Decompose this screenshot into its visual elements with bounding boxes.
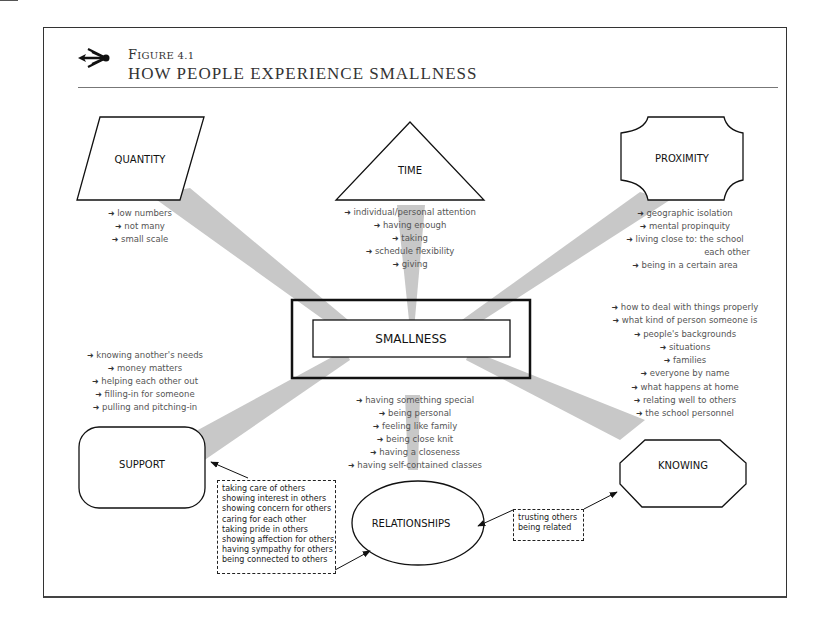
list-item: how to deal with things properly bbox=[600, 301, 770, 314]
list-item: what kind of person someone is bbox=[600, 314, 770, 327]
list-item: filling-in for someone bbox=[80, 388, 210, 401]
callout-item: being related bbox=[518, 523, 579, 533]
arrow-to-support bbox=[211, 462, 248, 478]
list-item: having something special bbox=[340, 394, 490, 407]
time-list: individual/personal attention having eno… bbox=[335, 206, 485, 271]
callout-item: being connected to others bbox=[222, 555, 331, 565]
relationships-list: having something special being personal … bbox=[340, 394, 490, 472]
list-item: living close to: the school bbox=[620, 233, 750, 246]
arrow-to-relationships bbox=[335, 551, 370, 570]
callout-item: taking pride in others bbox=[222, 525, 331, 535]
time-label: TIME bbox=[397, 165, 422, 176]
callout-item: showing interest in others bbox=[222, 494, 331, 504]
callout-item: trusting others bbox=[518, 513, 579, 523]
list-item: being in a certain area bbox=[620, 259, 750, 272]
list-item: people's backgrounds bbox=[600, 328, 770, 341]
quantity-list: low numbers not many small scale bbox=[90, 207, 190, 246]
callout-relationships-knowing: trusting others being related bbox=[513, 509, 584, 541]
quantity-label: QUANTITY bbox=[115, 154, 167, 165]
callout-item: taking care of others bbox=[222, 484, 331, 494]
list-item: low numbers bbox=[90, 207, 190, 220]
list-item: mental propinquity bbox=[620, 220, 750, 233]
proximity-label: PROXIMITY bbox=[655, 153, 710, 164]
callout-item: showing concern for others bbox=[222, 504, 331, 514]
list-item: geographic isolation bbox=[620, 207, 750, 220]
list-item: the school personnel bbox=[600, 407, 770, 420]
list-item: being close knit bbox=[340, 433, 490, 446]
list-item: having enough bbox=[335, 219, 485, 232]
callout-item: caring for each other bbox=[222, 515, 331, 525]
proximity-list: geographic isolation mental propinquity … bbox=[620, 207, 750, 272]
knowing-shape bbox=[620, 440, 746, 507]
list-item: helping each other out bbox=[80, 375, 210, 388]
list-item: giving bbox=[335, 258, 485, 271]
list-item: what happens at home bbox=[600, 381, 770, 394]
list-item: families bbox=[600, 354, 770, 367]
list-item: situations bbox=[600, 341, 770, 354]
list-item: knowing another's needs bbox=[80, 349, 210, 362]
list-item: individual/personal attention bbox=[335, 206, 485, 219]
support-label: SUPPORT bbox=[119, 459, 166, 470]
list-item: taking bbox=[335, 232, 485, 245]
list-item: having self-contained classes bbox=[340, 459, 490, 472]
list-item: being personal bbox=[340, 407, 490, 420]
callout-item: having sympathy for others bbox=[222, 545, 331, 555]
list-item-continuation: each other bbox=[620, 246, 750, 259]
time-shape bbox=[336, 122, 484, 200]
list-item: relating well to others bbox=[600, 394, 770, 407]
list-item: everyone by name bbox=[600, 367, 770, 380]
knowing-label: KNOWING bbox=[658, 460, 708, 471]
arrow-callout-to-knowing bbox=[584, 492, 617, 509]
list-item: money matters bbox=[80, 362, 210, 375]
list-item: pulling and pitching-in bbox=[80, 401, 210, 414]
list-item: feeling like family bbox=[340, 420, 490, 433]
knowing-list: how to deal with things properly what ki… bbox=[600, 301, 770, 421]
support-list: knowing another's needs money matters he… bbox=[80, 349, 210, 414]
list-item: having a closeness bbox=[340, 446, 490, 459]
list-item: not many bbox=[90, 220, 190, 233]
list-item: schedule flexibility bbox=[335, 245, 485, 258]
callout-support-relationships: taking care of others showing interest i… bbox=[217, 480, 336, 574]
relationships-label: RELATIONSHIPS bbox=[372, 518, 451, 529]
list-item: small scale bbox=[90, 233, 190, 246]
callout-item: showing affection for others bbox=[222, 535, 331, 545]
center-label: SMALLNESS bbox=[375, 332, 446, 346]
